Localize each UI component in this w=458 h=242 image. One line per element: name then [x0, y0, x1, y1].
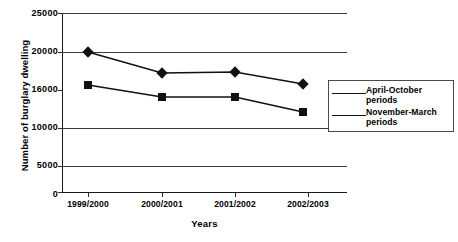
legend-key-april-october [332, 87, 366, 101]
x-tick-2000-2001 [162, 193, 163, 197]
diamond-marker-icon [297, 78, 308, 89]
x-tick-label-2001-2002: 2001/2002 [195, 199, 275, 209]
y-tick-label-0: 0 [12, 190, 58, 199]
plot-area: 1999/2000 2000/2001 2001/2002 2002/2003 … [62, 13, 347, 193]
markers-november-march [84, 81, 307, 116]
legend-key-november-march [332, 109, 366, 123]
x-tick-label-2002-2003: 2002/2003 [268, 199, 348, 209]
legend-item-november-march: November-March periods [329, 108, 453, 130]
legend-line [332, 115, 366, 116]
y-tick-label-16000: 16000 [12, 85, 58, 94]
diamond-marker-icon [156, 67, 167, 78]
series-plot [62, 13, 347, 193]
burglary-dwelling-line-chart: Number of burglary dwelling 25000 20000 … [0, 0, 458, 242]
legend-line [332, 93, 366, 94]
y-tick-label-5000: 5000 [12, 161, 58, 170]
y-tick-label-20000: 20000 [12, 47, 58, 56]
x-axis-title: Years [62, 218, 347, 229]
square-marker-icon [158, 93, 166, 101]
x-tick-2002-2003 [308, 193, 309, 197]
markers-april-october [82, 46, 308, 89]
diamond-marker-icon [229, 66, 240, 77]
legend-label-november-march: November-March periods [366, 108, 437, 127]
square-marker-icon [299, 108, 307, 116]
x-tick-2001-2002 [235, 193, 236, 197]
y-tick-label-25000: 25000 [12, 9, 58, 18]
square-marker-icon [84, 81, 92, 89]
x-tick-1999-2000 [88, 193, 89, 197]
legend-label-april-october: April-October periods [366, 86, 422, 105]
y-tick-label-10000: 10000 [12, 123, 58, 132]
square-marker-icon [231, 93, 239, 101]
series-line-april-october [88, 52, 303, 84]
legend-label-line2: periods [366, 96, 422, 106]
diamond-marker-icon [82, 46, 93, 57]
legend-item-april-october: April-October periods [329, 86, 453, 108]
x-tick-label-1999-2000: 1999/2000 [48, 199, 128, 209]
x-tick-label-2000-2001: 2000/2001 [122, 199, 202, 209]
legend-label-line2: periods [366, 118, 437, 128]
chart-legend: April-October periods November-March per… [328, 80, 454, 132]
series-line-november-march [88, 85, 303, 112]
